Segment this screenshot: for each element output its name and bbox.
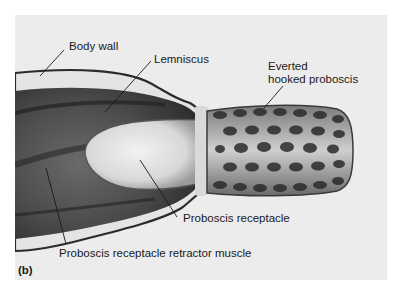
- label-everted-line1: Everted: [268, 60, 308, 73]
- panel-label: (b): [18, 264, 33, 276]
- label-body-wall: Body wall: [69, 40, 118, 53]
- label-retractor-muscle: Proboscis receptacle retractor muscle: [59, 247, 251, 260]
- label-lemniscus: Lemniscus: [154, 53, 209, 66]
- label-proboscis-receptacle: Proboscis receptacle: [183, 212, 290, 225]
- label-everted-line2: hooked proboscis: [268, 73, 358, 86]
